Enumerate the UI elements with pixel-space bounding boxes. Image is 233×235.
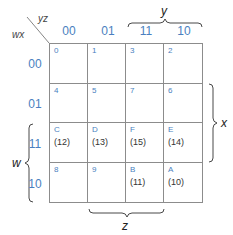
cell-index: D	[92, 125, 98, 134]
cell-11: B(11)	[126, 163, 164, 203]
row-header-00: 00	[24, 57, 46, 71]
cell-13: D(13)	[88, 123, 126, 163]
row-variables-label: wx	[12, 29, 24, 40]
cell-decimal: (12)	[54, 137, 70, 147]
cell-index: 2	[168, 46, 172, 55]
cell-decimal: (14)	[168, 137, 184, 147]
cell-4: 4	[50, 84, 88, 124]
cell-decimal: (15)	[130, 137, 146, 147]
column-variables-label: yz	[38, 13, 48, 24]
cell-7: 7	[126, 84, 164, 124]
cell-15: F(15)	[126, 123, 164, 163]
row-header-11: 11	[24, 137, 46, 151]
row-header-01: 01	[24, 97, 46, 111]
cell-6: 6	[164, 84, 202, 124]
cell-index: 6	[168, 86, 172, 95]
cell-index: 8	[54, 165, 58, 174]
cell-index: 5	[92, 86, 96, 95]
cell-decimal: (10)	[168, 177, 184, 187]
cell-1: 1	[88, 44, 126, 84]
cell-index: 4	[54, 86, 58, 95]
brace-label-w: w	[12, 156, 21, 170]
cell-index: F	[130, 125, 135, 134]
cell-8: 8	[50, 163, 88, 203]
cell-index: 0	[54, 46, 58, 55]
column-header-00: 00	[50, 24, 88, 38]
cell-14: E(14)	[164, 123, 202, 163]
brace-label-z: z	[122, 219, 128, 233]
cell-3: 3	[126, 44, 164, 84]
cell-9: 9	[88, 163, 126, 203]
column-header-01: 01	[89, 24, 127, 38]
cell-index: 3	[130, 46, 134, 55]
cell-index: 1	[92, 46, 96, 55]
cell-index: 7	[130, 86, 134, 95]
brace-label-x: x	[221, 116, 227, 130]
cell-index: B	[130, 165, 135, 174]
cell-5: 5	[88, 84, 126, 124]
cell-index: 9	[92, 165, 96, 174]
brace-label-y: y	[161, 4, 167, 18]
row-header-10: 10	[24, 177, 46, 191]
kmap-grid: 0 1 3 2 4 5 7 6 C(12) D(13) F(15) E(14) …	[49, 43, 203, 203]
karnaugh-map: yz wx 00 01 11 10 00 01 11 10 0 1 3 2 4 …	[0, 0, 233, 235]
column-header-10: 10	[165, 24, 203, 38]
cell-0: 0	[50, 44, 88, 84]
cell-index: C	[54, 125, 60, 134]
cell-decimal: (13)	[92, 137, 108, 147]
column-header-11: 11	[127, 24, 165, 38]
cell-10: A(10)	[164, 163, 202, 203]
cell-index: E	[168, 125, 173, 134]
cell-2: 2	[164, 44, 202, 84]
cell-index: A	[168, 165, 173, 174]
cell-12: C(12)	[50, 123, 88, 163]
cell-decimal: (11)	[130, 177, 145, 187]
